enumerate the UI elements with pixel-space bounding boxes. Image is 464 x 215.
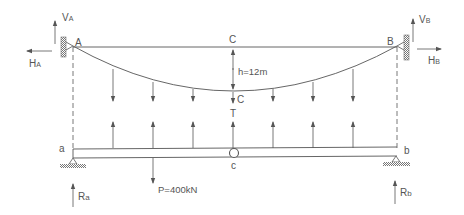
- label-b-beam: b: [404, 145, 410, 156]
- label-rb: Rb: [400, 187, 412, 198]
- hanger-up-arrows: [113, 122, 353, 148]
- right-wall-anchor: [397, 35, 409, 60]
- label-c-top: C: [229, 34, 236, 45]
- label-a-beam: a: [59, 143, 65, 154]
- label-b-node: B: [387, 36, 394, 47]
- label-t: T: [230, 108, 236, 119]
- label-vb: VB: [419, 14, 431, 25]
- label-point-load: P=400kN: [158, 184, 197, 195]
- label-hb: HB: [428, 55, 440, 66]
- label-va: VA: [62, 12, 74, 23]
- label-a-node: A: [75, 37, 82, 48]
- label-c-hinge: c: [231, 160, 236, 171]
- label-ha: HA: [29, 58, 41, 69]
- label-ra: Ra: [78, 191, 90, 202]
- label-sag: h=12m: [238, 66, 267, 77]
- cable-curve: [73, 46, 397, 91]
- label-c-cable: C: [237, 94, 244, 105]
- hinge-c: [230, 149, 239, 158]
- cable-beam-diagram: VA HA VB HB A B C C T h=12m a b c P=400k…: [0, 0, 464, 215]
- support-b: [383, 156, 410, 166]
- support-a: [60, 158, 86, 168]
- left-wall-anchor: [61, 37, 73, 57]
